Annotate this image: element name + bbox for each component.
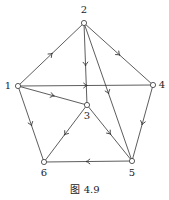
node-label-3: 3 [84, 110, 90, 121]
edge-line [18, 86, 87, 105]
node-5 [129, 158, 134, 163]
edge-3-to-6 [44, 105, 87, 162]
node-label-6: 6 [41, 167, 47, 178]
edge-3-to-5 [87, 105, 132, 161]
nodes-layer [15, 20, 155, 164]
edge-1-to-3 [18, 86, 87, 105]
figure-caption: 图 4.9 [70, 184, 99, 195]
node-3 [84, 102, 89, 107]
edge-line [132, 85, 153, 161]
edge-line [84, 23, 153, 85]
edge-line [18, 23, 84, 86]
labels-layer: 123456 [5, 4, 165, 178]
node-label-1: 1 [5, 80, 11, 91]
edge-2-to-4 [84, 23, 153, 85]
edge-1-to-4 [18, 83, 153, 88]
edge-4-to-5 [132, 85, 153, 161]
edge-line [84, 23, 132, 161]
node-label-4: 4 [159, 79, 165, 90]
edge-5-to-6 [44, 159, 132, 164]
node-4 [150, 82, 155, 87]
edge-line [87, 105, 132, 161]
edge-2-to-3 [83, 23, 88, 105]
edges-layer [18, 23, 153, 164]
node-1 [15, 83, 20, 88]
node-label-5: 5 [129, 167, 135, 178]
edge-1-to-2 [18, 23, 84, 86]
edge-line [44, 105, 87, 162]
node-label-2: 2 [81, 4, 87, 15]
edge-line [18, 86, 44, 162]
edge-2-to-5 [84, 23, 132, 161]
node-2 [81, 20, 86, 25]
directed-graph-diagram: 123456 图 4.9 [0, 0, 169, 200]
edge-1-to-6 [18, 86, 44, 162]
node-6 [41, 159, 46, 164]
